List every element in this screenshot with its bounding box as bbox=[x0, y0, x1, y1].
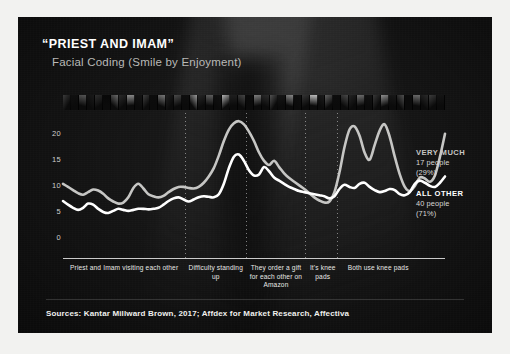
film-thumbnail bbox=[310, 95, 318, 110]
film-thumbnail bbox=[365, 95, 373, 110]
film-thumbnail bbox=[437, 95, 445, 110]
film-thumbnail bbox=[206, 95, 214, 110]
y-axis-tick-label: 10 bbox=[39, 180, 61, 189]
chart-plot-area bbox=[63, 117, 445, 237]
film-thumbnail bbox=[87, 95, 95, 110]
legend-item-name: VERY MUCH bbox=[416, 148, 492, 158]
film-thumbnail bbox=[222, 95, 230, 110]
film-thumbnail bbox=[119, 95, 127, 110]
film-thumbnail bbox=[357, 95, 365, 110]
film-thumbnail bbox=[158, 95, 166, 110]
film-thumbnail bbox=[166, 95, 174, 110]
y-axis-tick-label: 0 bbox=[39, 233, 61, 242]
legend-item-name: ALL OTHER bbox=[416, 189, 492, 199]
film-thumbnail bbox=[103, 95, 111, 110]
film-thumbnail bbox=[381, 95, 389, 110]
film-thumbnail bbox=[238, 95, 246, 110]
film-thumbnail bbox=[405, 95, 413, 110]
film-thumbnail bbox=[325, 95, 333, 110]
film-thumbnail bbox=[143, 95, 151, 110]
legend-item: ALL OTHER40 people(71%) bbox=[416, 189, 492, 218]
film-thumbnail bbox=[397, 95, 405, 110]
film-thumbnail bbox=[190, 95, 198, 110]
film-thumbnail bbox=[278, 95, 286, 110]
film-thumbnail bbox=[286, 95, 294, 110]
film-thumbnail bbox=[270, 95, 278, 110]
film-thumbnail bbox=[373, 95, 381, 110]
film-thumbnail bbox=[174, 95, 182, 110]
film-thumbnail bbox=[262, 95, 270, 110]
film-thumbnail bbox=[214, 95, 222, 110]
y-axis: 05101520 bbox=[39, 117, 61, 237]
video-thumbnail-strip bbox=[63, 95, 445, 110]
legend-item-percent: (29%) bbox=[416, 168, 492, 178]
film-thumbnail bbox=[230, 95, 238, 110]
y-axis-tick-label: 20 bbox=[39, 128, 61, 137]
film-thumbnail bbox=[63, 95, 71, 110]
film-thumbnail bbox=[111, 95, 119, 110]
film-thumbnail bbox=[318, 95, 326, 110]
film-thumbnail bbox=[413, 95, 421, 110]
film-thumbnail bbox=[429, 95, 437, 110]
film-thumbnail bbox=[302, 95, 310, 110]
title-block: “PRIEST AND IMAM” Facial Coding (Smile b… bbox=[42, 37, 242, 69]
film-thumbnail bbox=[127, 95, 135, 110]
film-thumbnail bbox=[389, 95, 397, 110]
film-thumbnail bbox=[294, 95, 302, 110]
sources-text: Sources: Kantar Millward Brown, 2017; Af… bbox=[46, 309, 349, 318]
chart-legend: VERY MUCH17 people(29%)ALL OTHER40 peopl… bbox=[416, 148, 492, 230]
film-thumbnail bbox=[198, 95, 206, 110]
film-thumbnail bbox=[333, 95, 341, 110]
film-thumbnail bbox=[254, 95, 262, 110]
x-axis-segment-label: They order a gift for each other on Amaz… bbox=[246, 264, 305, 290]
page-subtitle: Facial Coding (Smile by Enjoyment) bbox=[52, 55, 242, 69]
film-thumbnail bbox=[150, 95, 158, 110]
y-axis-tick-label: 15 bbox=[39, 154, 61, 163]
legend-item-people: 17 people bbox=[416, 158, 492, 168]
chart-line-very-much bbox=[63, 121, 445, 204]
film-thumbnail bbox=[79, 95, 87, 110]
line-chart-svg bbox=[63, 117, 445, 237]
x-axis-labels: Priest and Imam visiting each otherDiffi… bbox=[63, 264, 445, 312]
film-thumbnail bbox=[246, 95, 254, 110]
legend-item-percent: (71%) bbox=[416, 209, 492, 219]
x-axis-segment-label: Difficulty standing up bbox=[185, 264, 246, 281]
film-thumbnail bbox=[71, 95, 79, 110]
film-thumbnail bbox=[135, 95, 143, 110]
y-axis-tick-label: 5 bbox=[39, 206, 61, 215]
photo-frame: “PRIEST AND IMAM” Facial Coding (Smile b… bbox=[0, 0, 510, 354]
film-thumbnail bbox=[349, 95, 357, 110]
legend-item-people: 40 people bbox=[416, 199, 492, 209]
footer-divider bbox=[46, 299, 464, 300]
film-thumbnail bbox=[421, 95, 429, 110]
film-thumbnail bbox=[95, 95, 103, 110]
x-axis-segment-label: Both use knee pads bbox=[340, 264, 416, 273]
x-axis-segment-label: Priest and Imam visiting each other bbox=[63, 264, 185, 273]
presentation-slide: “PRIEST AND IMAM” Facial Coding (Smile b… bbox=[18, 17, 492, 333]
page-title: “PRIEST AND IMAM” bbox=[42, 37, 242, 52]
x-axis-rule bbox=[63, 258, 445, 259]
x-axis-segment-label: It's knee pads bbox=[306, 264, 340, 281]
legend-item: VERY MUCH17 people(29%) bbox=[416, 148, 492, 177]
film-thumbnail bbox=[182, 95, 190, 110]
film-thumbnail bbox=[341, 95, 349, 110]
